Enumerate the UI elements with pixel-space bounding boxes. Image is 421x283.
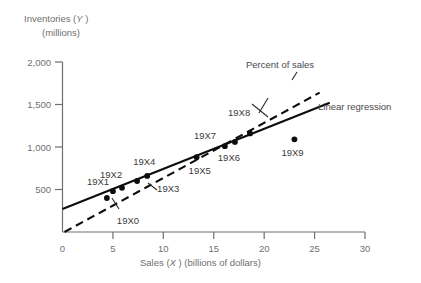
data-point-19x1 bbox=[110, 188, 116, 194]
percent-of-sales-line bbox=[65, 93, 320, 232]
data-point-19x2 bbox=[119, 185, 125, 191]
series-lines bbox=[63, 93, 330, 232]
linear-regression-label: Linear regression bbox=[318, 101, 391, 112]
data-point-label-19x0: 19X0 bbox=[117, 215, 139, 226]
x-tick-label-10: 10 bbox=[158, 243, 169, 254]
x-axis-title: Sales (X ) (billions of dollars) bbox=[140, 257, 261, 268]
data-point-label-19x7: 19X7 bbox=[194, 130, 216, 141]
leader-percent-of-sales bbox=[292, 72, 297, 80]
data-point-label-19x4: 19X4 bbox=[133, 156, 155, 167]
y-tick-label-2,000: 2,000 bbox=[27, 57, 51, 68]
data-point-19x7 bbox=[232, 139, 238, 145]
x-tick-label-30: 30 bbox=[360, 243, 371, 254]
data-point-19x9 bbox=[292, 136, 298, 142]
data-point-label-19x5: 19X5 bbox=[189, 165, 211, 176]
x-tick-label-15: 15 bbox=[208, 243, 219, 254]
y-axis-title-line1: Inventories (Y ) bbox=[24, 13, 88, 24]
data-point-label-19x9: 19X9 bbox=[281, 147, 303, 158]
x-tick-label-0: 0 bbox=[60, 243, 65, 254]
x-tick-label-25: 25 bbox=[309, 243, 320, 254]
data-point-19x3 bbox=[134, 178, 140, 184]
y-axis-ticks: 5001,0001,5002,000 bbox=[27, 57, 62, 196]
data-point-19x4 bbox=[144, 173, 150, 179]
data-point-19x0 bbox=[104, 195, 110, 201]
x-axis-ticks: 051015202530 bbox=[60, 232, 370, 254]
y-axis-title-line2: (millions) bbox=[42, 27, 80, 38]
y-tick-label-1,000: 1,000 bbox=[27, 142, 51, 153]
leader-19x8 bbox=[259, 98, 268, 113]
data-point-19x6 bbox=[222, 143, 228, 149]
chart-container: 5001,0001,5002,000 051015202530 Inventor… bbox=[0, 0, 421, 283]
y-tick-label-500: 500 bbox=[35, 184, 51, 195]
leader-19x0 bbox=[112, 198, 119, 209]
percent-of-sales-label: Percent of sales bbox=[246, 59, 314, 70]
axes bbox=[63, 62, 366, 232]
x-tick-label-5: 5 bbox=[110, 243, 115, 254]
data-point-label-19x8: 19X8 bbox=[228, 107, 250, 118]
data-point-label-19x6: 19X6 bbox=[218, 152, 240, 163]
data-point-label-19x3: 19X3 bbox=[157, 183, 179, 194]
y-tick-label-1,500: 1,500 bbox=[27, 99, 51, 110]
data-point-19x5 bbox=[194, 154, 200, 160]
inventories-vs-sales-scatter-chart: 5001,0001,5002,000 051015202530 Inventor… bbox=[0, 0, 421, 283]
data-point-label-19x2: 19X2 bbox=[100, 169, 122, 180]
data-point-19x8 bbox=[247, 131, 253, 137]
x-tick-label-20: 20 bbox=[259, 243, 270, 254]
